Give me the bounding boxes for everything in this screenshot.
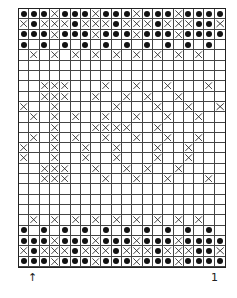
cross-icon [50,164,60,174]
dot-icon [143,236,153,246]
cross-icon [19,153,29,163]
empty-cell [19,195,29,205]
cross-icon [40,246,50,256]
dot-icon [163,226,173,236]
dot-icon [29,257,39,267]
empty-cell [91,102,101,112]
cross-icon [91,164,101,174]
cross-icon [50,112,60,122]
empty-cell [91,61,101,71]
cross-icon [204,81,214,91]
empty-cell [194,123,204,133]
cross-icon [91,215,101,225]
empty-cell [215,205,225,215]
cross-icon [132,257,142,267]
empty-cell [132,184,142,194]
empty-cell [112,174,122,184]
empty-cell [101,205,111,215]
dot-icon [143,40,153,50]
dot-icon [112,236,122,246]
dot-icon [194,246,204,256]
empty-cell [215,226,225,236]
empty-cell [50,226,60,236]
cross-icon [132,19,142,29]
dot-icon [40,257,50,267]
empty-cell [40,133,50,143]
empty-cell [132,205,142,215]
empty-cell [122,184,132,194]
dot-icon [143,226,153,236]
cross-icon [163,81,173,91]
empty-cell [174,174,184,184]
cross-icon [132,133,142,143]
cross-icon [153,215,163,225]
empty-cell [174,153,184,163]
dot-icon [153,30,163,40]
empty-cell [19,61,29,71]
empty-cell [50,184,60,194]
empty-cell [184,81,194,91]
cross-icon [91,50,101,60]
cross-icon [204,174,214,184]
empty-cell [163,50,173,60]
empty-cell [204,215,214,225]
cross-icon [163,112,173,122]
empty-cell [29,61,39,71]
empty-cell [143,195,153,205]
empty-cell [184,133,194,143]
empty-cell [174,133,184,143]
cross-icon [174,50,184,60]
empty-cell [71,143,81,153]
dot-icon [29,246,39,256]
empty-cell [101,61,111,71]
empty-cell [29,71,39,81]
dot-icon [19,9,29,19]
empty-cell [71,71,81,81]
empty-cell [60,50,70,60]
empty-cell [71,81,81,91]
empty-cell [153,40,163,50]
cross-icon [101,81,111,91]
empty-cell [194,226,204,236]
dot-icon [122,30,132,40]
empty-cell [204,61,214,71]
empty-cell [112,40,122,50]
cross-icon [50,123,60,133]
empty-cell [153,195,163,205]
empty-cell [112,61,122,71]
empty-cell [112,81,122,91]
cross-icon [143,92,153,102]
empty-cell [60,112,70,122]
empty-cell [60,195,70,205]
empty-cell [163,184,173,194]
empty-cell [184,164,194,174]
empty-cell [71,40,81,50]
empty-cell [81,215,91,225]
dot-icon [112,257,122,267]
dot-icon [194,257,204,267]
dot-icon [184,9,194,19]
empty-cell [163,143,173,153]
cross-icon [132,112,142,122]
empty-cell [194,40,204,50]
empty-cell [112,112,122,122]
dot-icon [19,30,29,40]
cross-icon [101,112,111,122]
empty-cell [204,133,214,143]
empty-cell [122,112,132,122]
empty-cell [40,195,50,205]
empty-cell [215,61,225,71]
empty-cell [71,164,81,174]
row-number-label: 1 [211,271,218,284]
empty-cell [143,81,153,91]
dot-icon [153,9,163,19]
empty-cell [153,164,163,174]
cross-icon [174,257,184,267]
empty-cell [204,112,214,122]
cross-icon [50,143,60,153]
dot-icon [112,246,122,256]
empty-cell [71,205,81,215]
empty-cell [101,143,111,153]
cross-icon [50,92,60,102]
dot-icon [71,236,81,246]
